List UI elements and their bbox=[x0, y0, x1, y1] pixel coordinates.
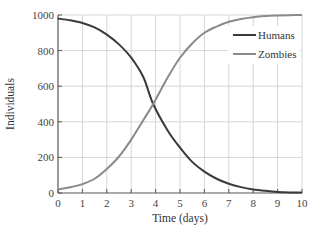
x-tick-label: 9 bbox=[275, 197, 281, 209]
x-tick-label: 5 bbox=[177, 197, 183, 209]
x-tick-label: 6 bbox=[202, 197, 208, 209]
legend-label-zombies: Zombies bbox=[258, 48, 297, 60]
x-tick-label: 10 bbox=[297, 197, 309, 209]
y-tick-label: 0 bbox=[49, 187, 55, 199]
y-tick-label: 400 bbox=[38, 116, 55, 128]
x-axis-title: Time (days) bbox=[152, 212, 208, 225]
x-tick-label: 0 bbox=[55, 197, 61, 209]
x-tick-label: 2 bbox=[104, 197, 110, 209]
x-tick-label: 1 bbox=[80, 197, 86, 209]
y-tick-label: 800 bbox=[38, 45, 55, 57]
legend: Humans Zombies bbox=[228, 26, 300, 64]
y-axis-title: Individuals bbox=[4, 78, 16, 130]
x-tick-label: 3 bbox=[128, 197, 134, 209]
x-tick-label: 7 bbox=[226, 197, 232, 209]
y-tick-label: 1000 bbox=[32, 9, 55, 21]
x-tick-label: 8 bbox=[250, 197, 256, 209]
y-tick-label: 200 bbox=[38, 151, 55, 163]
x-tick-label: 4 bbox=[153, 197, 159, 209]
line-chart: 01234567891002004006008001000 Time (days… bbox=[0, 0, 321, 237]
legend-label-humans: Humans bbox=[258, 29, 295, 41]
y-tick-label: 600 bbox=[38, 80, 55, 92]
